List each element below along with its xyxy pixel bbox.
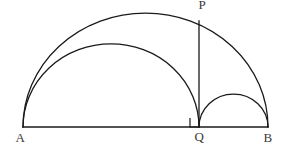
large-semicircle-arc-AB [23, 13, 268, 127]
geometry-canvas [0, 0, 290, 158]
vertex-label-p: P [199, 0, 206, 11]
arc-group [23, 13, 268, 127]
vertex-label-q: Q [195, 130, 204, 143]
segment-group [23, 21, 268, 127]
vertex-label-b: B [264, 131, 273, 144]
marker-group [190, 118, 199, 127]
right-angle-square-icon [190, 118, 199, 127]
geometry-figure: A B Q P [0, 0, 290, 158]
small-semicircle-arc-QB [199, 94, 268, 127]
vertex-label-a: A [16, 131, 25, 144]
